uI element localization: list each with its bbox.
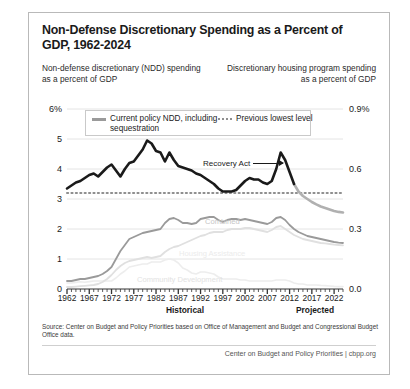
y-tick-right-1: 0.3: [349, 229, 362, 239]
x-tick-1997: 1997: [213, 293, 232, 303]
x-tick-1987: 1987: [169, 293, 188, 303]
chart-title: Non-Defense Discretionary Spending as a …: [42, 23, 372, 52]
series-label-community-development: Community Development: [137, 275, 222, 284]
era-label-historical: Historical: [166, 305, 204, 315]
y-tick-left-5: 5: [57, 139, 62, 149]
x-tick-1962: 1962: [58, 293, 77, 303]
source-note: Source: Center on Budget and Policy Prio…: [42, 323, 378, 339]
x-tick-2012: 2012: [280, 293, 299, 303]
x-tick-1982: 1982: [147, 293, 166, 303]
chart-svg: [67, 109, 343, 289]
x-tick-2022: 2022: [325, 293, 344, 303]
y-tick-left-3: 3: [57, 199, 62, 209]
legend-item-current-policy: Current policy NDD, including sequestrat…: [110, 114, 220, 134]
y-tick-left-4: 4: [57, 169, 62, 179]
x-tick-1992: 1992: [191, 293, 210, 303]
y-tick-left-2: 2: [57, 229, 62, 239]
x-tick-2002: 2002: [236, 293, 255, 303]
subtitle-left-axis: Non-defense discretionary (NDD) spending…: [42, 63, 202, 84]
x-tick-1972: 1972: [102, 293, 121, 303]
chart-legend: Current policy NDD, including sequestrat…: [85, 110, 311, 136]
subtitle-right-axis: Discretionary housing program spending a…: [216, 63, 376, 84]
era-label-projected: Projected: [296, 305, 334, 315]
annotation-arrow-icon: [253, 163, 283, 164]
footer-credit: Center on Budget and Policy Priorities |…: [225, 350, 376, 357]
plot-canvas: 0123456% 0.00.30.60.9% 19621967197219771…: [67, 109, 343, 289]
x-tick-2007: 2007: [258, 293, 277, 303]
series-label-combined: Combined: [205, 217, 240, 226]
x-tick-1977: 1977: [124, 293, 143, 303]
x-tick-2017: 2017: [303, 293, 322, 303]
legend-dotted-swatch: [218, 118, 232, 120]
y-tick-right-2: 0.6: [349, 169, 362, 179]
annotation-recovery-act-text: Recovery Act: [203, 159, 250, 168]
y-tick-right-0: 0.0: [349, 289, 362, 299]
footer-divider: [42, 345, 376, 346]
y-tick-right-3: 0.9%: [349, 109, 370, 119]
legend-item-previous-lowest: Previous lowest level: [236, 114, 316, 124]
x-tick-1967: 1967: [80, 293, 99, 303]
y-tick-left-1: 1: [57, 259, 62, 269]
annotation-recovery-act: Recovery Act: [203, 159, 283, 168]
chart-card: Non-Defense Discretionary Spending as a …: [28, 12, 390, 375]
y-tick-left-6: 6%: [49, 109, 62, 119]
legend-solid-swatch: [92, 118, 106, 121]
series-label-housing-assistance: Housing Assistance: [179, 249, 245, 258]
